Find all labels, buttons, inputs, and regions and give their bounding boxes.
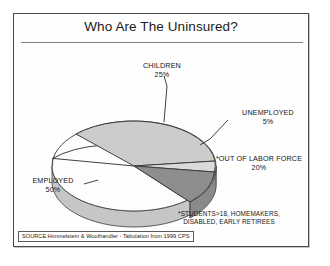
title-container: Who Are The Uninsured? <box>14 19 308 34</box>
footnote-line-2: DISABLED, EARLY RETIREES <box>154 218 304 226</box>
slice-label-out-of-labor-force: *OUT OF LABOR FORCE 20% <box>210 154 308 172</box>
slice-label-unemployed-pct: 5% <box>232 117 304 126</box>
footnote-line-1: *STUDENTS>18, HOMEMAKERS, <box>154 210 304 218</box>
slice-label-unemployed: UNEMPLOYED 5% <box>232 108 304 126</box>
slice-label-employed-name: EMPLOYED <box>32 176 73 185</box>
slice-label-out-of-labor-force-name: *OUT OF LABOR FORCE <box>216 154 302 163</box>
leader-line-unemployed <box>200 120 228 145</box>
leader-line-children <box>164 76 167 122</box>
slice-label-employed: EMPLOYED 50% <box>20 176 86 194</box>
footnote: *STUDENTS>18, HOMEMAKERS, DISABLED, EARL… <box>154 210 304 227</box>
source-box: SOURCE:Himmelstein & Woolhandler - Tabul… <box>18 231 194 243</box>
slice-label-children: CHILDREN 25% <box>132 61 192 79</box>
page-title: Who Are The Uninsured? <box>14 19 308 34</box>
slice-label-employed-pct: 50% <box>20 185 86 194</box>
slide-frame: Who Are The Uninsured? <box>13 13 309 247</box>
source-citation: SOURCE:Himmelstein & Woolhandler - Tabul… <box>22 233 190 240</box>
slice-label-children-pct: 25% <box>132 70 192 79</box>
slice-label-out-of-labor-force-pct: 20% <box>210 163 308 172</box>
title-divider <box>21 42 303 43</box>
pie-chart: CHILDREN 25% UNEMPLOYED 5% *OUT OF LABOR… <box>14 44 310 248</box>
slice-label-children-name: CHILDREN <box>143 61 181 70</box>
slice-label-unemployed-name: UNEMPLOYED <box>242 108 294 117</box>
